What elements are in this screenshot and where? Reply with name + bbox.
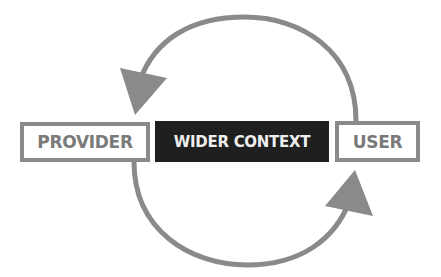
provider-box: PROVIDER — [20, 122, 150, 162]
wider-context-label: WIDER CONTEXT — [174, 133, 310, 151]
arrow-user-to-provider — [140, 17, 356, 121]
wider-context-box: WIDER CONTEXT — [155, 121, 329, 162]
arrowhead-bottom-icon — [325, 170, 373, 216]
arrowhead-top-icon — [120, 68, 167, 115]
provider-label: PROVIDER — [37, 132, 132, 152]
user-label: USER — [353, 132, 403, 152]
user-box: USER — [335, 121, 420, 162]
arrow-provider-to-user — [134, 162, 350, 265]
